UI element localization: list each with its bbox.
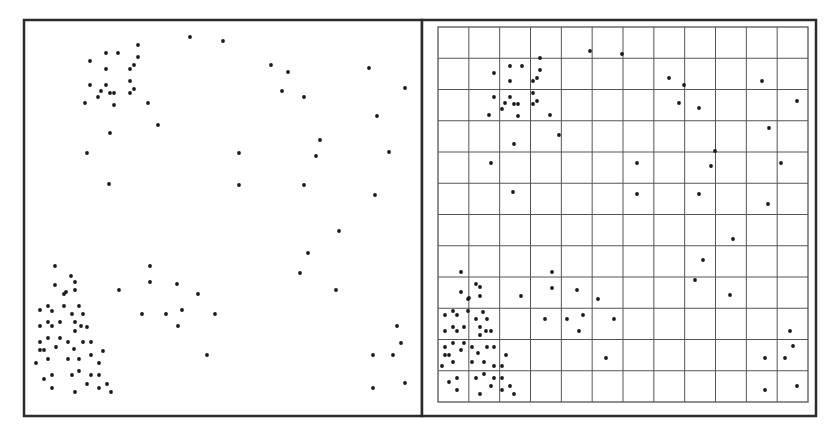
data-point: [73, 288, 77, 292]
data-point: [73, 280, 77, 284]
data-point: [38, 340, 42, 344]
data-point: [286, 70, 290, 74]
data-point: [504, 353, 508, 357]
data-point: [221, 39, 225, 43]
right-panel-quadrat-grid: [422, 20, 816, 416]
data-point: [682, 83, 686, 87]
data-point: [53, 283, 57, 287]
data-point: [46, 336, 50, 340]
data-point: [731, 237, 735, 241]
data-point: [508, 95, 512, 99]
right-panel-frame: [422, 20, 816, 416]
data-point: [97, 373, 101, 377]
data-point: [763, 388, 767, 392]
data-point: [117, 288, 121, 292]
data-point: [531, 102, 535, 106]
data-point: [81, 312, 85, 316]
data-point: [459, 270, 463, 274]
data-point: [713, 149, 717, 153]
data-point: [88, 59, 92, 63]
data-point: [500, 107, 504, 111]
data-point: [447, 380, 451, 384]
data-point: [38, 348, 42, 352]
data-point: [128, 91, 132, 95]
data-point: [50, 324, 54, 328]
data-point: [548, 113, 552, 117]
data-point: [116, 51, 120, 55]
data-point: [503, 101, 507, 105]
data-point: [85, 151, 89, 155]
data-point: [489, 384, 493, 388]
data-point: [459, 348, 463, 352]
data-point: [516, 114, 520, 118]
data-point: [604, 356, 608, 360]
data-point: [72, 347, 76, 351]
data-point: [83, 101, 87, 105]
data-point: [447, 353, 451, 357]
data-point: [565, 317, 569, 321]
data-point: [70, 312, 74, 316]
data-point: [476, 351, 480, 355]
data-point: [474, 376, 478, 380]
data-point: [588, 49, 592, 53]
data-point: [96, 95, 100, 99]
data-point: [89, 340, 93, 344]
data-point: [550, 286, 554, 290]
data-point: [132, 87, 136, 91]
data-point: [783, 356, 787, 360]
data-point: [693, 278, 697, 282]
data-point: [440, 364, 444, 368]
data-point: [34, 361, 38, 365]
data-point: [77, 304, 81, 308]
data-point: [175, 282, 179, 286]
data-point: [489, 329, 493, 333]
data-point: [474, 282, 478, 286]
data-point: [136, 55, 140, 59]
data-point: [487, 113, 491, 117]
data-point: [596, 297, 600, 301]
data-point: [38, 324, 42, 328]
data-point: [403, 381, 407, 385]
data-point: [367, 66, 371, 70]
figure: [0, 0, 835, 433]
data-point: [105, 382, 109, 386]
data-point: [466, 309, 470, 313]
data-point: [69, 274, 73, 278]
data-point: [54, 345, 58, 349]
data-point: [46, 320, 50, 324]
data-point: [459, 290, 463, 294]
data-point: [334, 288, 338, 292]
data-point: [70, 373, 74, 377]
data-point: [492, 95, 496, 99]
data-point: [478, 333, 482, 337]
left-panel-frame: [24, 20, 422, 416]
data-point: [500, 376, 504, 380]
data-point: [146, 101, 150, 105]
data-point: [108, 91, 112, 95]
data-point: [443, 329, 447, 333]
data-point: [148, 264, 152, 268]
data-point: [531, 91, 535, 95]
data-point: [795, 99, 799, 103]
data-point: [371, 353, 375, 357]
data-point: [314, 154, 318, 158]
data-point: [73, 390, 77, 394]
data-point: [213, 312, 217, 316]
data-point: [697, 192, 701, 196]
data-point: [156, 123, 160, 127]
data-point: [462, 325, 466, 329]
data-point: [462, 341, 466, 345]
data-point: [188, 35, 192, 39]
data-point: [492, 376, 496, 380]
data-point: [148, 280, 152, 284]
data-point: [99, 89, 103, 93]
data-point: [77, 369, 81, 373]
data-point: [38, 308, 42, 312]
data-point: [767, 126, 771, 130]
data-point: [112, 103, 116, 107]
data-point: [73, 329, 77, 333]
data-point: [128, 79, 132, 83]
data-point: [512, 392, 516, 396]
data-point: [779, 161, 783, 165]
data-point: [66, 340, 70, 344]
